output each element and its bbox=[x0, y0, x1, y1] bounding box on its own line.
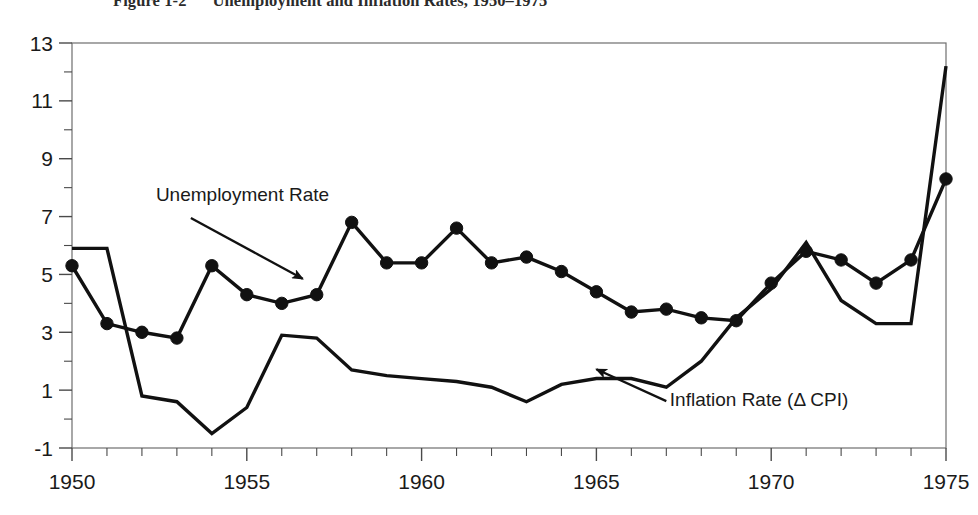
annotation-label: Unemployment Rate bbox=[156, 184, 329, 205]
chart-plot: Unemployment RateInflation Rate (Δ CPI) … bbox=[0, 0, 978, 515]
data-point-marker bbox=[345, 216, 357, 228]
y-axis-tick-label: 9 bbox=[41, 147, 53, 170]
data-point-marker bbox=[485, 257, 497, 269]
data-point-marker bbox=[450, 222, 462, 234]
data-point-marker bbox=[171, 332, 183, 344]
data-point-marker bbox=[520, 251, 532, 263]
y-axis-tick-label: 7 bbox=[41, 205, 53, 228]
x-axis-tick-label: 1965 bbox=[573, 470, 620, 493]
x-axis-tick-label: 1970 bbox=[748, 470, 795, 493]
x-axis-tick-label: 1960 bbox=[398, 470, 445, 493]
y-axis-tick-label: 5 bbox=[41, 263, 53, 286]
x-axis-tick-label: 1975 bbox=[923, 470, 970, 493]
data-point-marker bbox=[695, 312, 707, 324]
data-point-marker bbox=[835, 254, 847, 266]
data-point-marker bbox=[415, 257, 427, 269]
annotation-label: Inflation Rate (Δ CPI) bbox=[670, 389, 849, 410]
data-point-marker bbox=[590, 286, 602, 298]
figure-container: Figure 1-2Unemployment and Inflation Rat… bbox=[0, 0, 978, 515]
data-point-marker bbox=[380, 257, 392, 269]
data-point-marker bbox=[206, 260, 218, 272]
plot-frame bbox=[72, 43, 946, 448]
data-point-marker bbox=[940, 173, 952, 185]
y-axis-tick-label: 1 bbox=[41, 379, 53, 402]
data-point-marker bbox=[136, 326, 148, 338]
data-point-marker bbox=[905, 254, 917, 266]
series-layer bbox=[66, 66, 952, 433]
data-point-marker bbox=[241, 288, 253, 300]
data-point-marker bbox=[625, 306, 637, 318]
x-axis-tick-label: 1950 bbox=[49, 470, 96, 493]
data-series bbox=[72, 66, 946, 433]
data-point-marker bbox=[66, 260, 78, 272]
y-axis-tick-label: 11 bbox=[31, 89, 53, 112]
x-axis-tick-label: 1955 bbox=[223, 470, 270, 493]
y-axis-tick-label: 13 bbox=[30, 32, 53, 55]
y-axis-tick-label: -1 bbox=[34, 437, 53, 460]
data-point-marker bbox=[101, 317, 113, 329]
data-point-marker bbox=[870, 277, 882, 289]
data-point-marker bbox=[660, 303, 672, 315]
data-point-marker bbox=[276, 297, 288, 309]
y-axis-tick-label: 3 bbox=[41, 321, 53, 344]
data-point-marker bbox=[555, 265, 567, 277]
series-line bbox=[72, 66, 946, 433]
data-point-marker bbox=[311, 288, 323, 300]
